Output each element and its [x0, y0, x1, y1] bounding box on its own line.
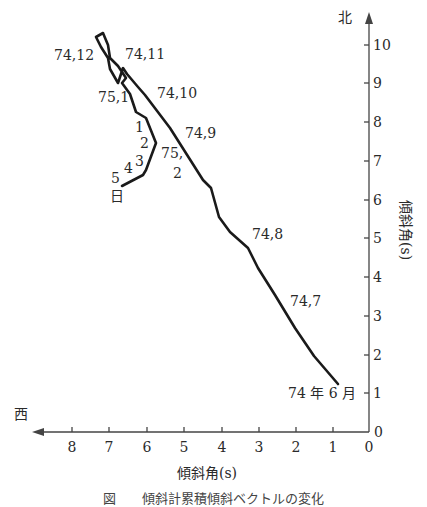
north-arrow-icon — [365, 12, 373, 24]
annotation-day-5: 5 — [111, 170, 120, 186]
figure-caption: 図 傾斜計累積傾斜ベクトルの変化 — [0, 488, 427, 507]
y-tick-0: 0 — [374, 424, 383, 440]
annotation-74-9: 74,9 — [185, 125, 216, 141]
y-tick-1: 1 — [373, 385, 382, 401]
north-label: 北 — [338, 9, 352, 25]
y-tick-3: 3 — [373, 308, 382, 324]
x-axis: 西 8 7 6 5 4 3 2 1 0 傾斜角(s) — [14, 406, 373, 481]
y-tick-7: 7 — [373, 153, 382, 169]
annotation-74-7: 74,7 — [290, 293, 321, 309]
x-tick-6: 6 — [143, 439, 152, 455]
x-tick-labels: 8 7 6 5 4 3 2 1 0 — [68, 439, 374, 455]
y-tick-5: 5 — [373, 230, 382, 246]
tilt-trajectory-line — [96, 33, 338, 384]
annotation-75-2a: 75, — [161, 145, 183, 161]
annotation-75-1: 75,1 — [98, 89, 129, 105]
y-tick-2: 2 — [373, 347, 382, 363]
annotation-74-12: 74,12 — [54, 47, 94, 63]
annotation-day-2: 2 — [140, 135, 149, 151]
annotation-74-10: 74,10 — [157, 85, 197, 101]
x-tick-8: 8 — [68, 439, 77, 455]
x-tick-5: 5 — [180, 439, 189, 455]
trajectory-annotations: 74 年 6 月 74,7 74,8 74,9 74,10 74,11 74,1… — [54, 46, 356, 401]
west-label: 西 — [14, 406, 28, 422]
annotation-day-1: 1 — [135, 119, 144, 135]
x-ticks — [72, 427, 333, 432]
y-tick-8: 8 — [373, 114, 382, 130]
annotation-day-3: 3 — [135, 153, 144, 169]
annotation-74-8: 74,8 — [252, 226, 283, 242]
x-tick-3: 3 — [255, 439, 264, 455]
annotation-75-2b: 2 — [173, 165, 182, 181]
annotation-74-11: 74,11 — [125, 46, 165, 62]
annotation-day-4: 4 — [124, 160, 133, 176]
x-tick-0: 0 — [365, 439, 374, 455]
y-tick-6: 6 — [373, 192, 382, 208]
x-tick-1: 1 — [329, 439, 338, 455]
annotation-74-6: 74 年 6 月 — [288, 385, 356, 401]
x-axis-title: 傾斜角(s) — [177, 465, 237, 481]
y-tick-labels: 10 9 8 7 6 5 4 3 2 1 0 — [373, 37, 391, 440]
west-arrow-icon — [32, 428, 44, 436]
x-tick-7: 7 — [105, 439, 114, 455]
annotation-day-unit: 日 — [110, 188, 124, 204]
y-tick-4: 4 — [373, 269, 382, 285]
y-axis-title: 傾斜角(s) — [398, 200, 414, 260]
x-tick-2: 2 — [292, 439, 301, 455]
y-axis: 北 10 9 8 7 6 5 4 3 2 1 0 傾斜角(s) — [338, 9, 414, 440]
y-ticks — [364, 45, 369, 393]
y-tick-10: 10 — [373, 37, 391, 53]
x-tick-4: 4 — [218, 439, 227, 455]
y-tick-9: 9 — [373, 75, 382, 91]
